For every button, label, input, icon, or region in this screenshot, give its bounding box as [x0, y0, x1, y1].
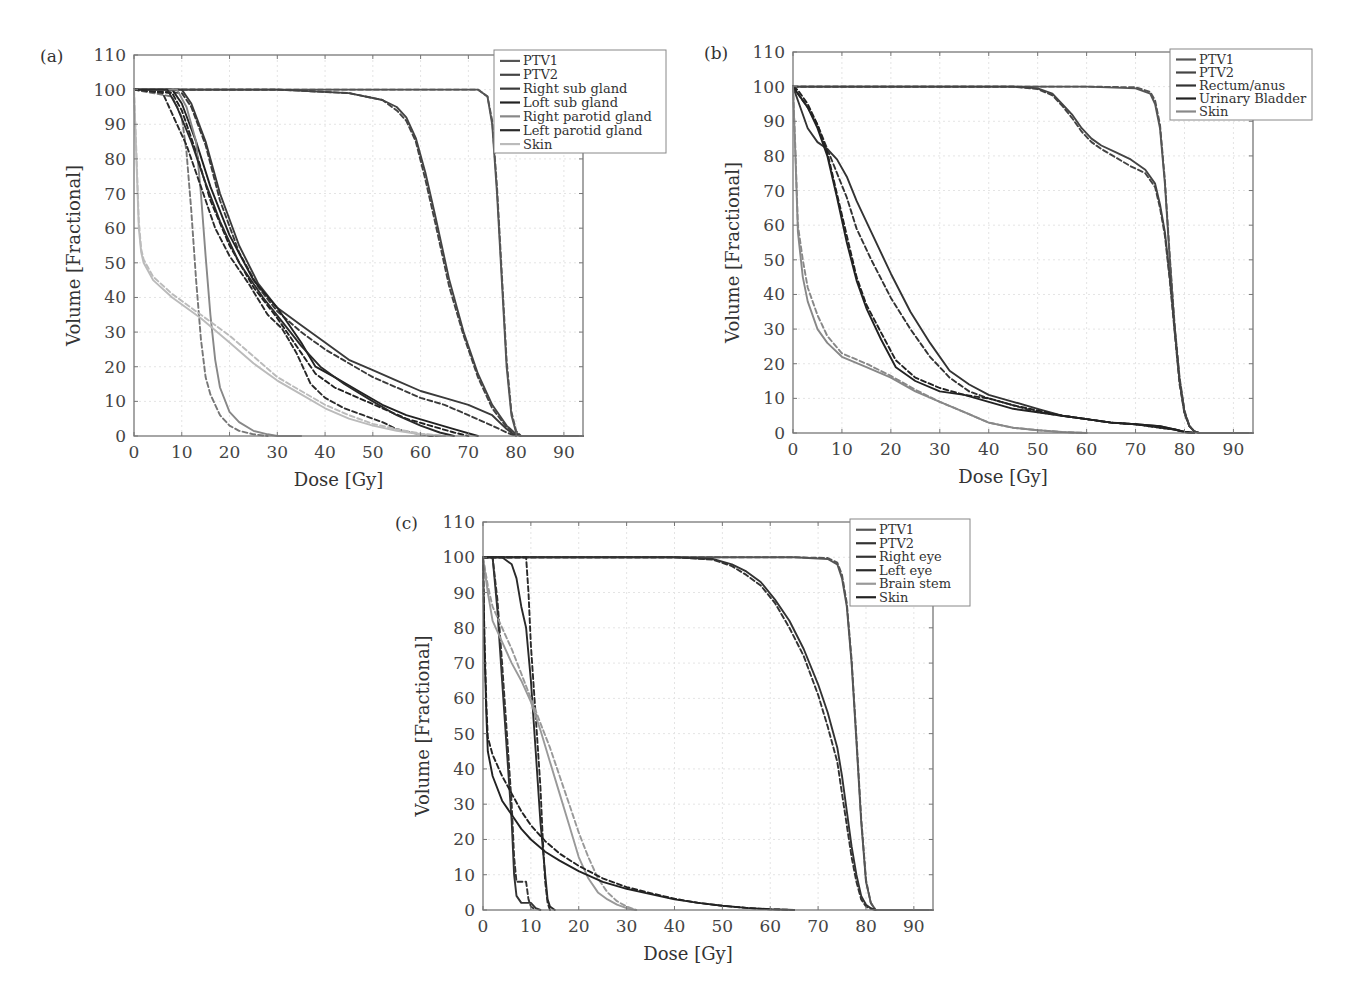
x-tick-label: 60 [410, 442, 432, 462]
x-tick-label: 80 [1174, 439, 1196, 459]
x-tick-label: 90 [1223, 439, 1245, 459]
y-axis-title: Volume [Fractional] [63, 165, 84, 347]
x-tick-label: 40 [314, 442, 336, 462]
y-tick-label: 50 [453, 724, 475, 744]
x-tick-label: 20 [219, 442, 241, 462]
y-tick-label: 70 [104, 184, 126, 204]
y-tick-label: 100 [753, 77, 785, 97]
legend-entry: Skin [1199, 104, 1229, 119]
x-axis-title: Dose [Gy] [958, 466, 1047, 487]
y-tick-label: 110 [753, 42, 785, 62]
panel-label: (c) [395, 513, 418, 533]
legend-entry: Skin [879, 590, 909, 605]
legend-entry: Right parotid gland [523, 109, 652, 124]
x-tick-label: 70 [1125, 439, 1147, 459]
y-tick-label: 0 [464, 900, 475, 920]
y-axis-title: Volume [Fractional] [722, 162, 743, 344]
y-tick-label: 50 [104, 253, 126, 273]
x-tick-label: 50 [362, 442, 384, 462]
figure: 0102030405060708090010203040506070809010… [0, 0, 1356, 1007]
legend: PTV1PTV2Right sub glandLoft sub glandRig… [494, 50, 666, 153]
x-tick-label: 10 [520, 916, 542, 936]
x-tick-label: 70 [458, 442, 480, 462]
y-tick-label: 10 [453, 865, 475, 885]
y-tick-label: 60 [453, 688, 475, 708]
x-tick-label: 60 [759, 916, 781, 936]
y-tick-label: 60 [763, 215, 785, 235]
x-tick-label: 90 [903, 916, 925, 936]
y-tick-label: 40 [453, 759, 475, 779]
chart-panel-c: 0102030405060708090010203040506070809010… [395, 512, 970, 964]
x-tick-label: 10 [831, 439, 853, 459]
legend: PTV1PTV2Rectum/anusUrinary BladderSkin [1170, 49, 1312, 120]
y-tick-label: 80 [763, 146, 785, 166]
y-tick-label: 60 [104, 218, 126, 238]
x-tick-label: 0 [129, 442, 140, 462]
y-tick-label: 30 [453, 794, 475, 814]
y-tick-label: 90 [453, 583, 475, 603]
x-tick-label: 10 [171, 442, 193, 462]
panel-label: (a) [40, 46, 63, 66]
legend-entry: Left parotid gland [523, 123, 642, 138]
legend-entry: PTV1 [523, 53, 558, 68]
legend-entry: Loft sub gland [523, 95, 618, 110]
x-tick-label: 0 [788, 439, 799, 459]
chart-panel-b: 0102030405060708090010203040506070809010… [704, 42, 1312, 487]
y-tick-label: 70 [763, 181, 785, 201]
y-tick-label: 30 [763, 319, 785, 339]
y-tick-label: 10 [763, 388, 785, 408]
x-tick-label: 60 [1076, 439, 1098, 459]
y-tick-label: 90 [104, 114, 126, 134]
legend: PTV1PTV2Right eyeLeft eyeBrain stemSkin [850, 519, 970, 606]
x-tick-label: 70 [807, 916, 829, 936]
y-tick-label: 100 [94, 80, 126, 100]
y-tick-label: 20 [763, 354, 785, 374]
legend-entry: Skin [523, 137, 553, 152]
x-tick-label: 80 [855, 916, 877, 936]
chart-panel-a: 0102030405060708090010203040506070809010… [40, 45, 666, 490]
y-tick-label: 20 [453, 829, 475, 849]
y-tick-label: 80 [104, 149, 126, 169]
x-tick-label: 90 [553, 442, 575, 462]
x-tick-label: 20 [568, 916, 590, 936]
y-tick-label: 100 [443, 547, 475, 567]
y-tick-label: 40 [763, 284, 785, 304]
y-tick-label: 0 [115, 426, 126, 446]
x-axis-title: Dose [Gy] [643, 943, 732, 964]
y-tick-label: 90 [763, 111, 785, 131]
y-tick-label: 0 [774, 423, 785, 443]
y-tick-label: 30 [104, 322, 126, 342]
y-tick-label: 110 [94, 45, 126, 65]
legend-entry: Right sub gland [523, 81, 627, 96]
panel-label: (b) [704, 43, 728, 63]
x-tick-label: 30 [929, 439, 951, 459]
y-tick-label: 10 [104, 391, 126, 411]
x-tick-label: 30 [616, 916, 638, 936]
x-tick-label: 50 [1027, 439, 1049, 459]
y-tick-label: 80 [453, 618, 475, 638]
x-tick-label: 40 [664, 916, 686, 936]
y-tick-label: 20 [104, 357, 126, 377]
x-axis-title: Dose [Gy] [294, 469, 383, 490]
x-tick-label: 0 [478, 916, 489, 936]
y-tick-label: 50 [763, 250, 785, 270]
x-tick-label: 40 [978, 439, 1000, 459]
y-tick-label: 70 [453, 653, 475, 673]
x-tick-label: 30 [266, 442, 288, 462]
x-tick-label: 80 [505, 442, 527, 462]
y-tick-label: 110 [443, 512, 475, 532]
y-tick-label: 40 [104, 287, 126, 307]
y-axis-title: Volume [Fractional] [412, 636, 433, 818]
x-tick-label: 50 [712, 916, 734, 936]
legend-entry: PTV2 [523, 67, 558, 82]
x-tick-label: 20 [880, 439, 902, 459]
